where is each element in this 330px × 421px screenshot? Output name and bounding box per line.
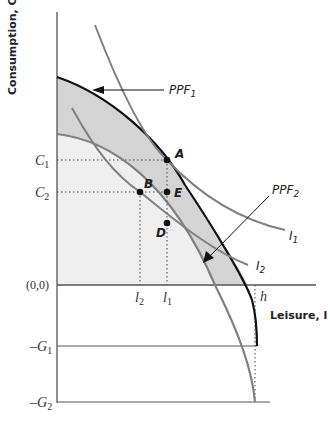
point-d-label: D bbox=[156, 226, 166, 240]
g2-tick-label: –G2 bbox=[29, 395, 52, 412]
c1-tick-label: C1 bbox=[35, 153, 49, 170]
c2-tick-label: C2 bbox=[35, 185, 49, 202]
ppf1-arrow bbox=[92, 86, 164, 94]
l2-tick-label: l2 bbox=[135, 290, 144, 307]
i2-label: I2 bbox=[256, 259, 266, 275]
point-b bbox=[137, 189, 144, 196]
i1-label: I1 bbox=[289, 229, 298, 245]
y-axis-label: Consumption, C bbox=[6, 0, 19, 95]
g1-tick-label: –G1 bbox=[29, 339, 52, 356]
x-axis-label: Leisure, l bbox=[270, 309, 327, 322]
point-b-label: B bbox=[144, 177, 153, 191]
ppf1-label: PPF1 bbox=[169, 83, 196, 99]
h-tick-label: h bbox=[260, 289, 267, 304]
point-a bbox=[164, 157, 171, 164]
point-e-label: E bbox=[174, 186, 183, 200]
ppf-diagram: A B E D PPF1 PPF2 I1 I2 C1 C2 (0,0) –G1 … bbox=[0, 0, 330, 421]
point-e bbox=[164, 189, 171, 196]
ppf2-label: PPF2 bbox=[272, 183, 299, 199]
l1-tick-label: l1 bbox=[163, 290, 172, 307]
origin-label: (0,0) bbox=[26, 278, 49, 292]
point-a-label: A bbox=[174, 147, 184, 161]
